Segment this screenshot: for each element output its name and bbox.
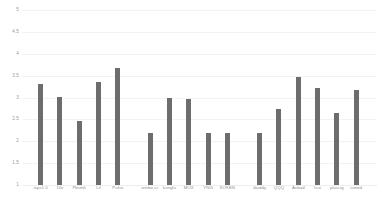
y-tick-label: 4 — [16, 51, 19, 56]
x-tick-label: KOKEN — [220, 186, 235, 190]
x-tick-label: Isui — [314, 186, 321, 190]
y-tick-label: 2.5 — [12, 117, 19, 122]
y-tick-label: 4.5 — [12, 30, 19, 35]
bar[interactable] — [354, 90, 359, 185]
x-tick-label: ibuddy — [253, 186, 266, 190]
bar[interactable] — [315, 88, 320, 185]
x-tick-label: Dlo — [57, 186, 64, 190]
bar[interactable] — [57, 97, 62, 185]
y-tick-label: 5 — [16, 8, 19, 13]
y-tick-label: 1.5 — [12, 161, 19, 166]
bar[interactable] — [115, 68, 120, 185]
bar[interactable] — [167, 98, 172, 186]
x-tick-label: QQQ — [274, 186, 284, 190]
x-tick-label: YNG — [203, 186, 212, 190]
bar[interactable] — [206, 133, 211, 186]
x-tick-label: Anbad — [292, 186, 305, 190]
x-axis: iops1.0DloPbsmhLilPulseweibo.cckungfuMOX… — [22, 186, 377, 200]
x-tick-label: ismod — [350, 186, 362, 190]
x-tick-label: weibo.cc — [142, 186, 159, 190]
y-tick-label: 3.5 — [12, 73, 19, 78]
bar[interactable] — [186, 99, 191, 185]
x-tick-label: MOX — [184, 186, 194, 190]
x-tick-label: iops1.0 — [34, 186, 48, 190]
bar[interactable] — [148, 133, 153, 186]
y-tick-label: 1 — [16, 183, 19, 188]
x-tick-label: Pbsmh — [72, 186, 86, 190]
bar[interactable] — [77, 121, 82, 185]
bar[interactable] — [296, 77, 301, 185]
x-tick-label: kungfu — [163, 186, 176, 190]
x-tick-label: pluscig — [330, 186, 344, 190]
bar[interactable] — [225, 133, 230, 186]
bar[interactable] — [38, 84, 43, 185]
plot-area — [22, 10, 377, 185]
x-tick-label: Lil — [96, 186, 100, 190]
bar-chart: 54.543.532.521.51 iops1.0DloPbsmhLilPuls… — [0, 0, 383, 208]
bar[interactable] — [96, 82, 101, 185]
y-axis: 54.543.532.521.51 — [0, 10, 22, 185]
bar[interactable] — [334, 113, 339, 185]
bars — [22, 10, 377, 185]
y-tick-label: 3 — [16, 95, 19, 100]
bar[interactable] — [276, 109, 281, 185]
x-tick-label: Pulse — [112, 186, 123, 190]
bar[interactable] — [257, 133, 262, 186]
y-tick-label: 2 — [16, 139, 19, 144]
